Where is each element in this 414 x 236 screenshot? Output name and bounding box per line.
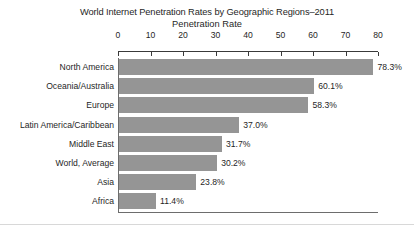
- chart-subtitle: Penetration Rate: [0, 18, 414, 30]
- x-axis-tick-mark: [313, 52, 314, 56]
- bar-row: Africa11.4%: [0, 193, 414, 209]
- category-label: Africa: [92, 195, 114, 207]
- category-label: Europe: [86, 99, 114, 111]
- bar-value-label: 60.1%: [318, 80, 342, 92]
- page-title: World Internet Penetration Rates by Geog…: [0, 6, 414, 18]
- figure-baseline-rule: [0, 224, 414, 225]
- x-axis-tick-label: 40: [243, 30, 253, 40]
- x-axis-tick-mark: [248, 52, 249, 56]
- bar-row: Middle East31.7%: [0, 136, 414, 152]
- x-axis-tick-mark: [378, 52, 379, 56]
- bar: [119, 174, 196, 190]
- bar-row: World, Average30.2%: [0, 155, 414, 171]
- x-axis-tick-mark: [346, 52, 347, 56]
- category-label: North America: [60, 61, 114, 73]
- bar-value-label: 31.7%: [226, 138, 250, 150]
- bar-row: Latin America/Caribbean37.0%: [0, 117, 414, 133]
- category-label: Middle East: [69, 138, 114, 150]
- bar: [119, 97, 308, 113]
- bar-row: North America78.3%: [0, 59, 414, 75]
- x-axis-tick-mark: [216, 52, 217, 56]
- x-axis-tick-label: 0: [116, 30, 121, 40]
- x-axis-tick-mark: [118, 52, 119, 56]
- x-axis-tick-mark: [281, 52, 282, 56]
- bar-row: Oceania/Australia60.1%: [0, 78, 414, 94]
- x-axis-tick-label: 50: [276, 30, 286, 40]
- bar: [119, 78, 314, 94]
- bar-value-label: 30.2%: [221, 157, 245, 169]
- bar: [119, 193, 156, 209]
- bar-value-label: 58.3%: [312, 99, 336, 111]
- plot-area: North America78.3%Oceania/Australia60.1%…: [0, 58, 414, 213]
- bar-value-label: 11.4%: [160, 195, 184, 207]
- x-axis-tick-label: 30: [211, 30, 221, 40]
- chart-title-block: World Internet Penetration Rates by Geog…: [0, 6, 414, 30]
- x-axis-tick-label: 60: [308, 30, 318, 40]
- x-axis-tick-mark: [151, 52, 152, 56]
- category-label: World, Average: [56, 157, 114, 169]
- bar: [119, 117, 239, 133]
- bar: [119, 59, 373, 75]
- x-axis-tick-label: 10: [146, 30, 156, 40]
- x-axis-tick-label: 70: [341, 30, 351, 40]
- bar-row: Europe58.3%: [0, 97, 414, 113]
- bar-value-label: 23.8%: [200, 176, 224, 188]
- x-axis-tick-label: 20: [178, 30, 188, 40]
- category-label: Latin America/Caribbean: [20, 119, 114, 131]
- category-label: Oceania/Australia: [46, 80, 114, 92]
- x-axis-tick-mark: [183, 52, 184, 56]
- bar: [119, 136, 222, 152]
- bar-value-label: 78.3%: [377, 61, 401, 73]
- x-axis-tick-label: 80: [373, 30, 383, 40]
- x-axis: 01020304050607080: [0, 30, 414, 58]
- plot-bottom-border: [118, 212, 378, 213]
- category-label: Asia: [97, 176, 114, 188]
- bar-value-label: 37.0%: [243, 119, 267, 131]
- bar-row: Asia23.8%: [0, 174, 414, 190]
- bar: [119, 155, 217, 171]
